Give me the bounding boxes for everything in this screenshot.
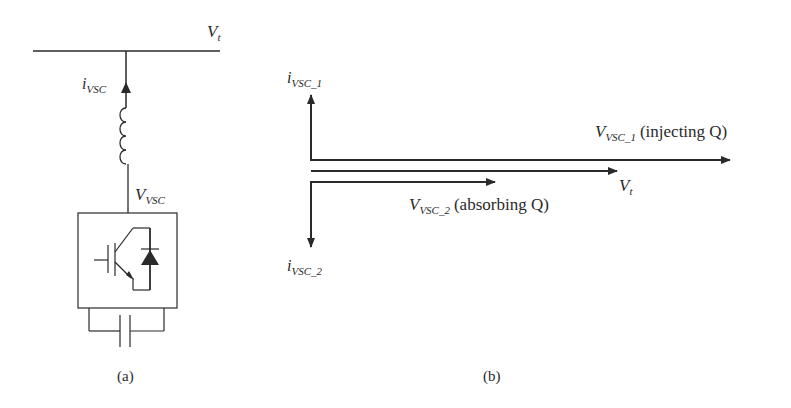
panel-a-circuit: Vt iVSC VVSC bbox=[33, 22, 221, 385]
label-i-vsc-1: iVSC_1 bbox=[287, 69, 322, 89]
label-v-vsc-2: VVSC_2(absorbing Q) bbox=[409, 195, 549, 216]
bus-voltage-label: Vt bbox=[207, 22, 221, 43]
label-i-vsc-2: iVSC_2 bbox=[287, 257, 323, 277]
inductor-icon bbox=[120, 108, 126, 164]
vsc-diagram: Vt iVSC VVSC bbox=[0, 0, 791, 408]
diode-icon bbox=[141, 249, 159, 265]
caption-a: (a) bbox=[117, 368, 134, 385]
converter-voltage-label: VVSC bbox=[135, 185, 166, 206]
dc-capacitor-icon bbox=[89, 308, 164, 347]
label-v-vsc-1: VVSC_1(injecting Q) bbox=[595, 122, 727, 143]
current-arrow-icon bbox=[121, 82, 131, 93]
current-label: iVSC bbox=[82, 75, 107, 95]
label-v-t: Vt bbox=[619, 176, 633, 197]
igbt-emitter-arrow-icon bbox=[126, 271, 134, 280]
converter-box bbox=[78, 213, 177, 308]
panel-b-phasor-diagram: iVSC_1 VVSC_1(injecting Q) Vt VVSC_2(abs… bbox=[287, 69, 730, 385]
caption-b: (b) bbox=[483, 368, 501, 385]
igbt-icon bbox=[94, 228, 150, 290]
